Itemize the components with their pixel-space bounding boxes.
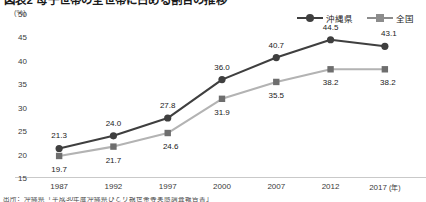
data-point-label: 27.8 [160, 101, 176, 110]
data-point-label: 44.5 [323, 22, 339, 31]
x-axis-tick-label: 1987 [50, 182, 68, 191]
data-point-marker[interactable] [165, 130, 171, 136]
data-point-marker[interactable] [110, 143, 116, 149]
data-point-label: 40.7 [268, 40, 284, 49]
chart-footnote: 出所：沖縄県「平成30年度沖縄県ひとり親世帯等実態調査報告書」 [3, 197, 213, 202]
y-axis-tick-label: 15 [18, 174, 27, 183]
data-point-marker[interactable] [273, 54, 280, 61]
series-line-okinawa [59, 40, 385, 149]
data-point-label: 21.3 [51, 131, 67, 140]
data-point-marker[interactable] [327, 66, 333, 72]
data-point-marker[interactable] [219, 96, 225, 102]
y-axis-tick-label: 45 [18, 33, 27, 42]
plot-area: 1520253035404550198719921997200020072012… [32, 14, 412, 178]
data-point-marker[interactable] [56, 145, 63, 152]
data-point-marker[interactable] [381, 43, 388, 50]
series-layer [32, 14, 412, 178]
x-axis-unit-label: (年) [387, 184, 401, 191]
data-point-label: 19.7 [51, 164, 67, 173]
x-axis-tick-label: 1997 [159, 182, 177, 191]
x-axis-tick-label: 2017 (年) [369, 182, 400, 192]
x-axis-tick-label: 2007 [267, 182, 285, 191]
y-axis-tick-label: 40 [18, 56, 27, 65]
chart-title: 図表2 母子世帯の全世帯に占める割合の推移 [4, 0, 227, 7]
data-point-label: 38.2 [380, 78, 396, 87]
data-point-marker[interactable] [110, 132, 117, 139]
y-axis-tick-label: 20 [18, 150, 27, 159]
data-point-label: 38.2 [323, 78, 339, 87]
data-point-label: 24.0 [106, 118, 122, 127]
data-point-marker[interactable] [382, 66, 388, 72]
data-point-label: 36.0 [214, 62, 230, 71]
data-point-marker[interactable] [273, 79, 279, 85]
data-point-label: 35.5 [268, 90, 284, 99]
data-point-label: 31.9 [214, 107, 230, 116]
data-point-marker[interactable] [56, 153, 62, 159]
chart-container: 図表2 母子世帯の全世帯に占める割合の推移 (%) 沖縄県全国 15202530… [0, 0, 426, 202]
data-point-label: 24.6 [163, 142, 179, 151]
x-axis-tick-label: 2000 [213, 182, 231, 191]
data-point-label: 21.7 [106, 155, 122, 164]
y-axis-tick-label: 25 [18, 127, 27, 136]
data-point-label: 43.1 [381, 29, 397, 38]
data-point-marker[interactable] [164, 114, 171, 121]
y-axis-tick-label: 50 [18, 10, 27, 19]
data-point-marker[interactable] [327, 36, 334, 43]
y-axis-tick-label: 35 [18, 80, 27, 89]
data-point-marker[interactable] [218, 76, 225, 83]
chart-title-strip: 図表2 母子世帯の全世帯に占める割合の推移 [0, 0, 426, 7]
x-axis-tick-label: 1992 [105, 182, 123, 191]
x-axis-tick-label: 2012 [322, 182, 340, 191]
footnote-strip: 出所：沖縄県「平成30年度沖縄県ひとり親世帯等実態調査報告書」 [0, 197, 426, 202]
y-axis-tick-label: 30 [18, 103, 27, 112]
